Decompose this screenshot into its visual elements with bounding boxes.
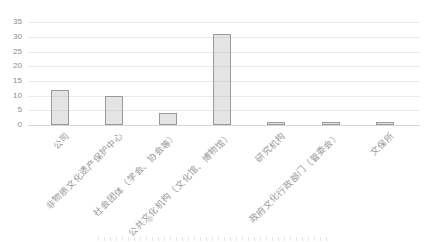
gridline bbox=[28, 22, 420, 23]
y-tick-label: 35 bbox=[0, 17, 22, 27]
y-tick-label: 15 bbox=[0, 76, 22, 86]
y-tick-label: 30 bbox=[0, 32, 22, 42]
y-tick-label: 0 bbox=[0, 120, 22, 130]
x-axis-baseline bbox=[28, 125, 420, 126]
y-tick-label: 20 bbox=[0, 61, 22, 71]
bar-chart: 05101520253035 公司非物质文化遗产保护中心社会团体（学会、协会等）… bbox=[0, 0, 426, 242]
bar bbox=[376, 122, 394, 125]
faint-mark bbox=[146, 215, 154, 223]
y-tick-label: 10 bbox=[0, 91, 22, 101]
bar bbox=[51, 90, 69, 125]
y-tick-label: 25 bbox=[0, 47, 22, 57]
x-axis-label: 研究机构 bbox=[252, 129, 288, 165]
y-tick-label: 5 bbox=[0, 105, 22, 115]
x-axis-label: 政府文化行政部门（管委会） bbox=[246, 129, 343, 226]
bar bbox=[267, 122, 285, 125]
bar bbox=[105, 96, 123, 125]
x-axis-label: 公司 bbox=[49, 129, 72, 152]
x-axis-label: 文保所 bbox=[368, 129, 397, 158]
x-axis-label: 公共文化机构（文化馆、博物馆） bbox=[124, 129, 234, 239]
cropped-caption-remnant bbox=[98, 237, 330, 241]
bar bbox=[159, 113, 177, 125]
bar bbox=[213, 34, 231, 125]
bar bbox=[322, 122, 340, 125]
